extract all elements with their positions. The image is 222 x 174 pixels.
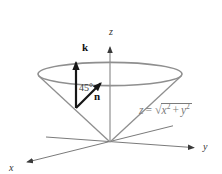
x-axis-label: x [9,163,13,173]
z-axis-label: z [109,27,113,37]
equation-y-exponent: 2 [186,102,190,111]
cone-diagram: z y x k n 45° z=√x2+y2 [0,0,222,174]
k-vector-label: k [82,42,88,53]
cone-equation: z=√x2+y2 [139,103,192,117]
equation-x-exponent: 2 [167,102,171,111]
equation-lhs: z [139,104,143,116]
n-vector-label: n [94,91,100,102]
equation-equals: = [145,104,152,116]
x-axis [28,126,174,162]
y-axis-label: y [203,142,207,152]
equation-plus: + [172,104,179,116]
equation-radicand: x2+y2 [161,103,192,117]
angle-label: 45° [79,83,93,93]
